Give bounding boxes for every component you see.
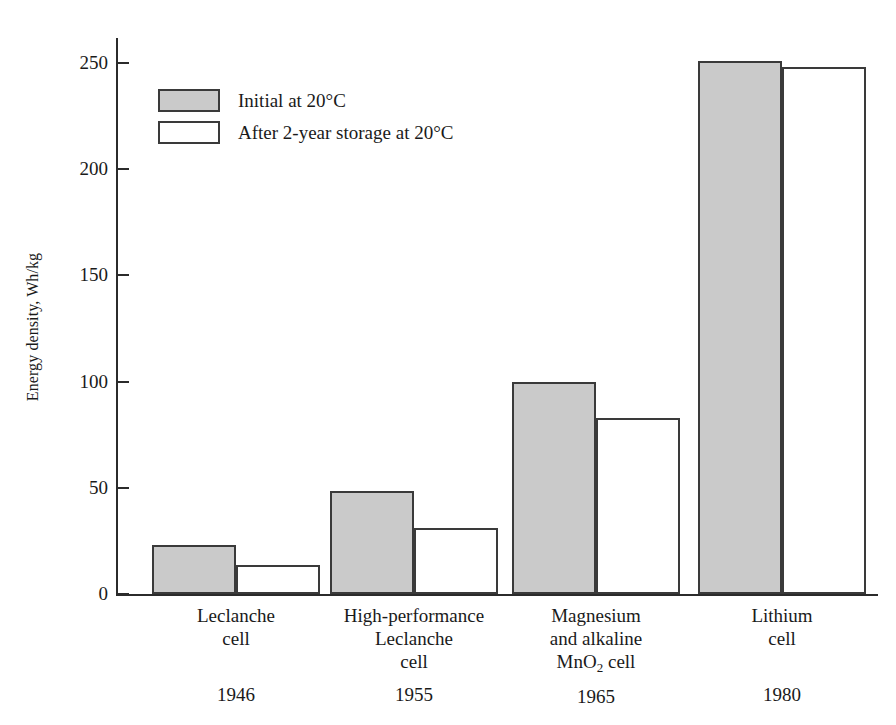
y-tick-label-100: 100 — [80, 372, 109, 391]
bar-initial-0 — [152, 545, 236, 594]
y-tick-label-50: 50 — [89, 478, 108, 497]
y-tick-250 — [118, 62, 129, 64]
legend: Initial at 20°C After 2-year storage at … — [158, 86, 453, 150]
y-tick-50 — [118, 487, 129, 489]
y-tick-100 — [118, 381, 129, 383]
category-name-3: Lithiumcell — [672, 604, 892, 650]
category-name-line-1: Lithium — [672, 604, 892, 627]
y-tick-0 — [118, 593, 129, 595]
legend-item-aged: After 2-year storage at 20°C — [158, 118, 453, 146]
legend-swatch-aged-icon — [158, 121, 220, 144]
category-year-3: 1980 — [672, 683, 892, 706]
legend-label-aged: After 2-year storage at 20°C — [238, 123, 453, 142]
y-axis-line — [116, 38, 118, 596]
bar-aged-3 — [782, 67, 866, 594]
bar-initial-3 — [698, 61, 782, 594]
legend-swatch-initial-icon — [158, 89, 220, 112]
y-tick-200 — [118, 168, 129, 170]
y-tick-150 — [118, 274, 129, 276]
y-tick-label-200: 200 — [80, 159, 109, 178]
category-name-line-2: cell — [672, 627, 892, 650]
bar-initial-1 — [330, 491, 414, 594]
y-tick-label-150: 150 — [80, 265, 109, 284]
bar-aged-0 — [236, 565, 320, 594]
bar-aged-1 — [414, 528, 498, 594]
legend-label-initial: Initial at 20°C — [238, 91, 346, 110]
y-tick-label-0: 0 — [99, 584, 109, 603]
legend-item-initial: Initial at 20°C — [158, 86, 453, 114]
bar-initial-2 — [512, 382, 596, 594]
y-axis-title: Energy density, Wh/kg — [24, 217, 42, 437]
y-tick-label-250: 250 — [80, 53, 109, 72]
category-label-group-3: Lithiumcell1980 — [672, 604, 892, 706]
bar-aged-2 — [596, 418, 680, 594]
x-axis-line — [116, 594, 878, 596]
subscript: 2 — [597, 660, 604, 675]
bar-chart: Energy density, Wh/kg 250200150100500 In… — [0, 0, 896, 725]
